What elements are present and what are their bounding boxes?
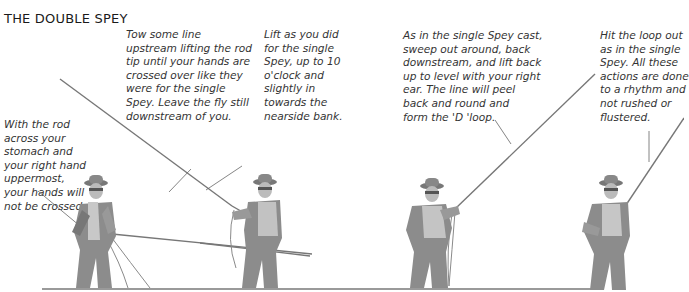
pointer-line-1 bbox=[38, 191, 80, 226]
figure-step-4 bbox=[406, 74, 595, 288]
pointer-line-3 bbox=[206, 166, 242, 190]
pointer-line-2 bbox=[169, 169, 191, 192]
rod-icon bbox=[456, 74, 595, 208]
figure-step-5 bbox=[582, 118, 684, 290]
figure-step-2 bbox=[169, 166, 310, 288]
pointer-line-4 bbox=[495, 120, 511, 144]
rod-icon bbox=[60, 79, 232, 206]
rod-icon bbox=[620, 118, 684, 214]
